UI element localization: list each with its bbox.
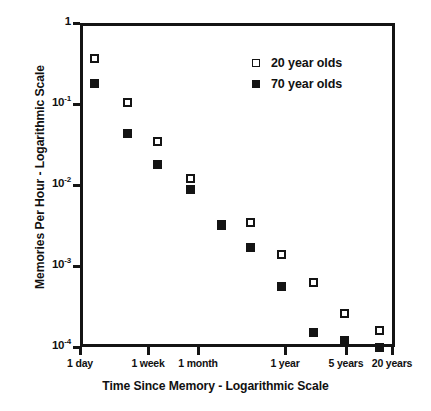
legend-item-label: 20 year olds — [271, 56, 342, 70]
x-axis-tick-mark — [345, 347, 348, 355]
data-point-marker — [309, 278, 318, 287]
y-axis-tick-label-text: 10-1 — [52, 96, 71, 108]
data-point-marker — [186, 174, 195, 183]
data-point-marker — [123, 98, 132, 107]
data-point-marker — [340, 336, 349, 345]
legend-item: 70 year olds — [252, 73, 392, 94]
data-point-marker — [186, 185, 195, 194]
data-point-marker — [277, 250, 286, 259]
data-point-marker — [340, 309, 349, 318]
legend-item-label: 70 year olds — [271, 77, 342, 91]
legend-item: 20 year olds — [252, 52, 392, 73]
x-axis-tick-mark — [79, 347, 82, 355]
y-axis-tick-mark — [73, 265, 80, 268]
data-point-marker — [90, 54, 99, 63]
open-square-icon — [252, 59, 260, 67]
y-axis-tick-label: 10-4 — [10, 339, 71, 353]
data-point-marker — [246, 243, 255, 252]
y-axis-tick-label-text: 10-2 — [52, 177, 71, 189]
x-axis-tick-mark — [391, 347, 394, 355]
x-axis-title: Time Since Memory - Logarithmic Scale — [0, 379, 431, 393]
data-point-marker — [153, 137, 162, 146]
data-point-marker — [277, 282, 286, 291]
y-axis-tick-label: 10-2 — [10, 177, 71, 191]
y-axis-tick-label-text: 10-3 — [52, 258, 71, 270]
x-axis-tick-mark — [147, 347, 150, 355]
x-axis-tick-label: 20 years — [352, 357, 431, 369]
y-axis-tick-label-text: 10-4 — [52, 339, 71, 351]
x-axis-tick-mark — [197, 347, 200, 355]
y-axis-tick-mark — [73, 184, 80, 187]
y-axis-tick-label: 10-1 — [10, 96, 71, 110]
x-axis-tick-label: 1 month — [158, 357, 238, 369]
chart-legend: 20 year olds70 year olds — [252, 52, 392, 94]
y-axis-tick-label: 10-3 — [10, 258, 71, 272]
chart-figure: Memories Per Hour - Logarithmic Scale 11… — [0, 0, 431, 411]
y-axis-tick-label-text: 1 — [65, 15, 71, 27]
y-axis-tick-mark — [73, 22, 80, 25]
y-axis-tick-label: 1 — [10, 15, 71, 29]
data-point-marker — [217, 221, 226, 230]
data-point-marker — [90, 79, 99, 88]
data-point-marker — [375, 343, 384, 352]
data-point-marker — [153, 160, 162, 169]
data-point-marker — [246, 218, 255, 227]
x-axis-tick-mark — [284, 347, 287, 355]
y-axis-tick-mark — [73, 103, 80, 106]
data-point-marker — [375, 326, 384, 335]
data-point-marker — [309, 328, 318, 337]
data-point-marker — [123, 129, 132, 138]
filled-square-icon — [252, 80, 260, 88]
